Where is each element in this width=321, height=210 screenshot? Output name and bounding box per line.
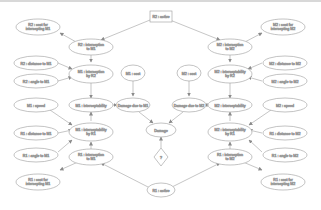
- svg-text:M1 : speed: M1 : speed: [27, 104, 45, 108]
- svg-text:intercepting M1: intercepting M1: [26, 182, 51, 186]
- svg-text:R1 : angle to M1: R1 : angle to M1: [23, 154, 49, 158]
- svg-text:R2 : active: R2 : active: [153, 15, 170, 19]
- svg-text:M2 : speed: M2 : speed: [276, 104, 294, 108]
- node-r1-interception-m1: R1 : interception to M1: [69, 149, 113, 165]
- svg-text:intercepting M1: intercepting M1: [26, 27, 51, 31]
- svg-text:M1 : interceptability: M1 : interceptability: [76, 104, 107, 108]
- node-r2-cost-m2: M2 : cost for intercepting M2: [261, 19, 305, 35]
- node-r2-cost-m1: R2 : cost for intercepting M1: [16, 19, 60, 35]
- svg-text:M2 : interceptability: M2 : interceptability: [215, 104, 246, 108]
- node-m1-interceptability: M1 : interceptability: [69, 98, 113, 112]
- svg-text:to M2: to M2: [226, 157, 235, 161]
- svg-text:by R1: by R1: [86, 132, 95, 136]
- node-r2-angle-m2: M2 : angle to M2: [263, 74, 307, 88]
- svg-text:R1 : distance to M1: R1 : distance to M1: [21, 132, 52, 136]
- node-r2-distance-m2: M2 : distance to M2: [263, 56, 307, 70]
- svg-text:Damage: Damage: [154, 129, 168, 133]
- node-m2-cost: M2 : cost: [177, 65, 201, 81]
- svg-text:by R2: by R2: [86, 74, 95, 78]
- svg-text:M2 : angle to M2: M2 : angle to M2: [272, 80, 299, 84]
- svg-text:M2 : distance to M2: M2 : distance to M2: [269, 62, 300, 66]
- node-damage-m1: Damage due to M1: [116, 98, 150, 112]
- node-r1-cost-m1: R1 : cost for intercepting M1: [16, 174, 60, 190]
- svg-text:R1 : distance to M2: R1 : distance to M2: [270, 132, 301, 136]
- svg-text:M1 : cost: M1 : cost: [126, 72, 141, 76]
- node-r2-angle-m1: R2 : angle to M1: [14, 74, 58, 88]
- node-r1-angle-m1: R1 : angle to M1: [14, 148, 58, 162]
- node-m1-interceptability-r1: M1 : interceptability by R1: [69, 123, 113, 141]
- svg-text:to M1: to M1: [87, 157, 96, 161]
- node-damage: Damage: [146, 123, 176, 137]
- svg-text:Damage due to M1: Damage due to M1: [118, 104, 149, 108]
- node-m1-speed: M1 : speed: [14, 98, 58, 112]
- node-r2-active: R2 : active: [150, 11, 172, 22]
- node-m1-interception-r2: M1 : interception by R2: [69, 65, 113, 83]
- svg-text:M2 : cost: M2 : cost: [182, 72, 197, 76]
- node-decision-diamond: ?: [154, 148, 168, 166]
- svg-text:intercepting M2: intercepting M2: [271, 182, 296, 186]
- node-r1-distance-m1: R1 : distance to M1: [14, 126, 58, 140]
- svg-text:to M2: to M2: [226, 47, 235, 51]
- svg-text:to M1: to M1: [87, 47, 96, 51]
- node-m2-interception-r2: M2 : interceptability by R2: [208, 65, 252, 83]
- node-r1-cost-m2: R1 : cost for intercepting M2: [261, 174, 305, 190]
- node-m1-cost: M1 : cost: [121, 65, 145, 81]
- node-r2-interception-m2: M2 : interception to M2: [208, 39, 252, 55]
- node-m2-speed: M2 : speed: [263, 98, 307, 112]
- svg-text:by R2: by R2: [225, 74, 234, 78]
- node-damage-m2: Damage due to M2: [172, 98, 206, 112]
- node-r1-active: R1 : active: [147, 183, 175, 197]
- svg-text:R2 : distance to M1: R2 : distance to M1: [21, 62, 52, 66]
- node-r1-distance-m2: R1 : distance to M2: [263, 126, 307, 140]
- influence-diagram: R2 : active R2 : cost for intercepting M…: [0, 0, 321, 210]
- svg-text:?: ?: [160, 156, 162, 160]
- svg-text:by R1: by R1: [225, 132, 234, 136]
- node-r1-interception-m2: R1 : interception to M2: [208, 149, 252, 165]
- node-r2-distance-m1: R2 : distance to M1: [14, 56, 58, 70]
- node-m2-interceptability: M2 : interceptability: [208, 98, 252, 112]
- node-m2-interceptability-r1: M2 : interceptability by R1: [208, 123, 252, 141]
- node-r1-angle-m2: R1 : angle to M2: [263, 148, 307, 162]
- svg-text:R2 : angle to M1: R2 : angle to M1: [23, 80, 49, 84]
- svg-text:Damage due to M2: Damage due to M2: [174, 104, 205, 108]
- svg-text:intercepting M2: intercepting M2: [271, 27, 296, 31]
- svg-text:R1 : angle to M2: R1 : angle to M2: [272, 154, 298, 158]
- svg-text:R1 : active: R1 : active: [153, 189, 170, 193]
- node-r2-interception-m1: R2 : interception to M1: [69, 39, 113, 55]
